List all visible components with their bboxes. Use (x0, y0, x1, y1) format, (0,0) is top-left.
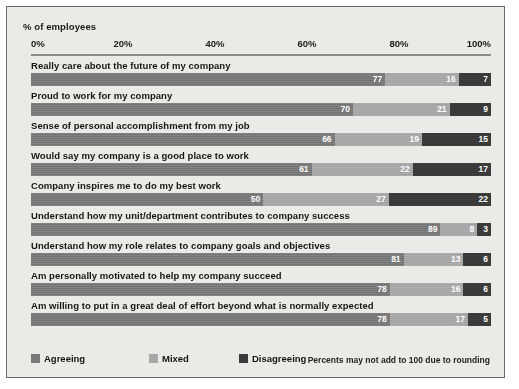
bar-segment-agreeing: 78 (31, 283, 390, 296)
bar-row: Proud to work for my company70219 (31, 89, 491, 119)
bar-row-label: Understand how my role relates to compan… (31, 240, 330, 251)
bar-row: Understand how my unit/department contri… (31, 209, 491, 239)
bar-row-label: Company inspires me to do my best work (31, 180, 221, 191)
bar-segment-disagreeing: 5 (468, 313, 491, 326)
axis-title: % of employees (23, 21, 96, 32)
bar-segment-mixed: 16 (385, 73, 459, 86)
x-tick-100: 100% (467, 38, 491, 49)
bar-segment-disagreeing: 22 (389, 193, 491, 206)
bar-segment-agreeing: 70 (31, 103, 353, 116)
bar-segment-value: 70 (341, 105, 353, 114)
bar-segment-disagreeing: 3 (477, 223, 491, 236)
stacked-bar: 78175 (31, 313, 491, 326)
bar-rows: Really care about the future of my compa… (31, 59, 491, 329)
bar-row-label: Would say my company is a good place to … (31, 150, 249, 161)
bar-segment-value: 13 (451, 255, 463, 264)
bar-segment-value: 7 (483, 75, 491, 84)
bar-row: Understand how my role relates to compan… (31, 239, 491, 269)
bar-row: Am personally motivated to help my compa… (31, 269, 491, 299)
legend-label: Mixed (162, 353, 189, 364)
x-tick-20: 20% (113, 38, 132, 49)
bar-segment-value: 27 (376, 195, 388, 204)
bar-segment-value: 66 (322, 135, 334, 144)
bar-segment-value: 21 (437, 105, 449, 114)
bar-segment-value: 9 (483, 105, 491, 114)
x-axis-rule (31, 54, 491, 56)
bar-segment-value: 15 (479, 135, 491, 144)
bar-segment-disagreeing: 7 (459, 73, 491, 86)
bar-segment-value: 22 (479, 195, 491, 204)
bar-segment-mixed: 13 (404, 253, 464, 266)
bar-row-label: Proud to work for my company (31, 90, 172, 101)
bar-segment-mixed: 8 (440, 223, 477, 236)
bar-segment-disagreeing: 6 (463, 253, 491, 266)
bar-row-label: Am personally motivated to help my compa… (31, 270, 282, 281)
legend-swatch-icon (31, 354, 40, 363)
bar-segment-agreeing: 61 (31, 163, 312, 176)
bar-segment-value: 17 (479, 165, 491, 174)
bar-row-label: Really care about the future of my compa… (31, 60, 231, 71)
bar-segment-value: 16 (446, 75, 458, 84)
legend-item-mixed[interactable]: Mixed (149, 353, 189, 364)
bar-segment-value: 77 (373, 75, 385, 84)
bar-row: Would say my company is a good place to … (31, 149, 491, 179)
bar-segment-mixed: 19 (335, 133, 422, 146)
legend-label: Agreeing (44, 353, 85, 364)
chart-figure: % of employees 0%20%40%60%80%100% Really… (6, 6, 505, 378)
bar-segment-value: 17 (456, 315, 468, 324)
bar-segment-disagreeing: 15 (422, 133, 491, 146)
bar-segment-mixed: 22 (312, 163, 413, 176)
x-tick-60: 60% (297, 38, 316, 49)
bar-segment-value: 61 (299, 165, 311, 174)
x-tick-40: 40% (205, 38, 224, 49)
stacked-bar: 8983 (31, 223, 491, 236)
bar-segment-agreeing: 77 (31, 73, 385, 86)
bar-segment-value: 81 (391, 255, 403, 264)
bar-row: Am willing to put in a great deal of eff… (31, 299, 491, 329)
stacked-bar: 661915 (31, 133, 491, 146)
bar-segment-value: 8 (469, 225, 477, 234)
stacked-bar: 502722 (31, 193, 491, 206)
legend-swatch-icon (239, 354, 248, 363)
bar-row-label: Sense of personal accomplishment from my… (31, 120, 250, 131)
bar-segment-mixed: 27 (263, 193, 388, 206)
bar-segment-value: 78 (377, 315, 389, 324)
bar-segment-value: 22 (400, 165, 412, 174)
stacked-bar: 77167 (31, 73, 491, 86)
bar-segment-value: 78 (377, 285, 389, 294)
bar-segment-value: 5 (483, 315, 491, 324)
bar-segment-value: 50 (251, 195, 263, 204)
bar-row: Company inspires me to do my best work50… (31, 179, 491, 209)
bar-row: Sense of personal accomplishment from my… (31, 119, 491, 149)
bar-segment-value: 19 (410, 135, 422, 144)
bar-segment-agreeing: 66 (31, 133, 335, 146)
bar-row: Really care about the future of my compa… (31, 59, 491, 89)
bar-segment-value: 16 (451, 285, 463, 294)
bar-row-label: Am willing to put in a great deal of eff… (31, 300, 374, 311)
bar-segment-agreeing: 50 (31, 193, 263, 206)
bar-segment-value: 89 (428, 225, 440, 234)
stacked-bar: 78166 (31, 283, 491, 296)
bar-segment-value: 3 (483, 225, 491, 234)
bar-segment-mixed: 21 (353, 103, 450, 116)
bar-segment-mixed: 16 (390, 283, 464, 296)
stacked-bar: 612217 (31, 163, 491, 176)
x-tick-0: 0% (31, 38, 45, 49)
bar-segment-agreeing: 89 (31, 223, 440, 236)
bar-segment-disagreeing: 6 (463, 283, 491, 296)
bar-row-label: Understand how my unit/department contri… (31, 210, 350, 221)
bar-segment-agreeing: 78 (31, 313, 390, 326)
bar-segment-disagreeing: 9 (450, 103, 491, 116)
bar-segment-disagreeing: 17 (413, 163, 491, 176)
stacked-bar: 70219 (31, 103, 491, 116)
legend-item-disagreeing[interactable]: Disagreeing (239, 353, 306, 364)
bar-segment-mixed: 17 (390, 313, 468, 326)
bar-segment-value: 6 (483, 255, 491, 264)
stacked-bar: 81136 (31, 253, 491, 266)
legend-swatch-icon (149, 354, 158, 363)
legend-item-agreeing[interactable]: Agreeing (31, 353, 85, 364)
legend-label: Disagreeing (252, 353, 306, 364)
x-tick-80: 80% (389, 38, 408, 49)
x-axis-tick-labels: 0%20%40%60%80%100% (31, 38, 491, 52)
chart-footnote: Percents may not add to 100 due to round… (308, 355, 490, 365)
